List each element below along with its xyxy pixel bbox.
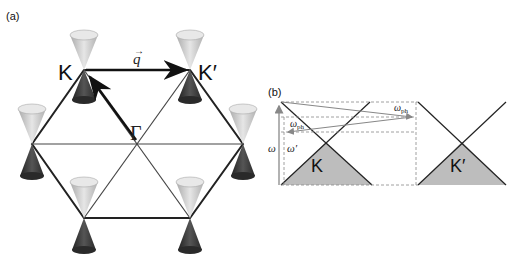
q-vector-arrow-glyph: → [134,45,144,56]
omega-label: ω [268,142,276,154]
gamma-label: Γ [130,122,142,144]
brillouin-zone [32,70,243,218]
kprime-label: K′ [198,60,217,85]
omega-ph-label-right: ωph [394,102,409,115]
figure: (a) [0,0,521,268]
panel-a-label: (a) [6,10,19,22]
omega-ph-label-left: ωph [290,118,305,131]
panel-b-label: (b) [268,86,281,98]
k-label-b: K [311,156,323,176]
k-label: K [58,60,73,85]
cone-k [70,30,98,104]
kprime-label-b: K′ [450,156,466,176]
omega-prime-label: ω′ [287,142,298,154]
